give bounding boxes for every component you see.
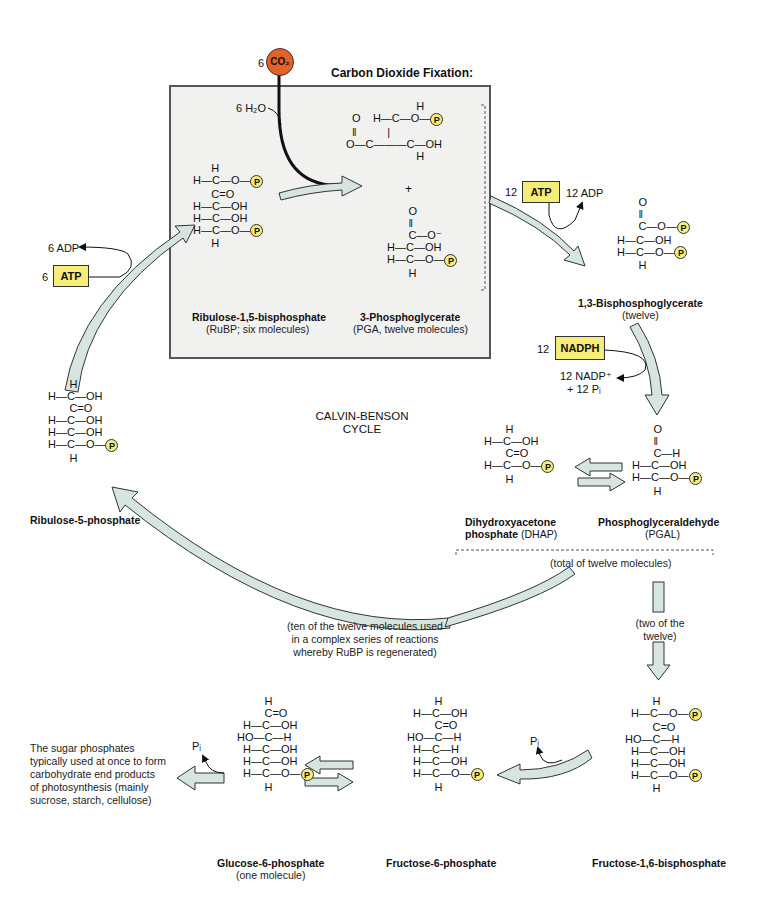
bpg-structure: O ‖ C—O—P H—C—OH H—C—O—P H bbox=[617, 196, 690, 271]
pi-label: + 12 Pᵢ bbox=[567, 383, 601, 395]
atp6-box: ATP bbox=[53, 265, 89, 287]
note-line: carbohydrate end products bbox=[30, 768, 190, 781]
phosphate-icon: P bbox=[105, 439, 118, 452]
pga-structure-2: O ‖ C—O⁻ H—C—OH H—C—O—P H bbox=[387, 205, 457, 279]
end-products-note: The sugar phosphates typically used at o… bbox=[30, 742, 190, 807]
pi-g6p-label: Pᵢ bbox=[192, 740, 201, 752]
phosphate-icon: P bbox=[541, 460, 554, 473]
note-line: (two of the bbox=[632, 617, 688, 630]
note-line: twelve) bbox=[632, 630, 688, 643]
pi-fbp-label: Pᵢ bbox=[530, 735, 539, 747]
phosphate-icon: P bbox=[471, 768, 484, 781]
phosphate-icon: P bbox=[250, 175, 263, 188]
f6p-structure: H H—C—OH C=O HO—C—H H—C—H H—C—OH H—C—O—P… bbox=[407, 695, 484, 793]
total-note: (total of twelve molecules) bbox=[550, 557, 671, 569]
pga-structure-1: H O H—C—O—P ‖ | O—C———C—OH H bbox=[346, 100, 443, 162]
note-line: in a complex series of reactions bbox=[285, 633, 445, 646]
fixation-title: Carbon Dioxide Fixation: bbox=[331, 66, 473, 80]
g6p-sub: (one molecule) bbox=[236, 869, 305, 881]
co2-circle: CO₂ bbox=[266, 48, 294, 76]
note-line: typically used at once to form bbox=[30, 755, 190, 768]
note-line: of photosynthesis (mainly bbox=[30, 781, 190, 794]
co2-coefficient: 6 bbox=[258, 57, 264, 69]
pgal-sub: (PGAL) bbox=[645, 528, 680, 540]
two-of-twelve-note: (two of the twelve) bbox=[632, 617, 688, 643]
cycle-label-line1: CALVIN-BENSON bbox=[312, 410, 412, 423]
phosphate-icon: P bbox=[430, 113, 443, 126]
nadp-label: 12 NADP⁺ bbox=[560, 370, 612, 383]
r5p-structure: H H—C—OH C=O H—C—OH H—C—OH H—C—O—P H bbox=[48, 378, 118, 464]
phosphate-icon: P bbox=[674, 246, 687, 259]
rubp-sub: (RuBP; six molecules) bbox=[206, 323, 309, 335]
note-line: The sugar phosphates bbox=[30, 742, 190, 755]
dhap-abbr: (DHAP) bbox=[521, 528, 557, 540]
dhap-name2: phosphate (DHAP) bbox=[465, 528, 557, 540]
phosphate-icon: P bbox=[677, 221, 690, 234]
adp12-label: 12 ADP bbox=[566, 187, 603, 199]
phosphate-icon: P bbox=[444, 254, 457, 267]
adp6-label: 6 ADP bbox=[48, 242, 79, 254]
pga-sub: (PGA, twelve molecules) bbox=[353, 323, 468, 335]
dhap-name-line2: phosphate bbox=[465, 528, 518, 540]
nadph-coefficient: 12 bbox=[537, 343, 549, 355]
rubp-structure: H H—C—O—P C=O H—C—OH H—C—OH H—C—O—P H bbox=[193, 162, 263, 249]
regen-note: (ten of the twelve molecules used in a c… bbox=[285, 620, 445, 659]
dhap-structure: H H—C—OH C=O H—C—O—P H bbox=[484, 423, 554, 485]
pga-name: 3-Phosphoglycerate bbox=[360, 311, 460, 323]
rubp-name: Ribulose-1,5-bisphosphate bbox=[192, 311, 326, 323]
cycle-label-line2: CYCLE bbox=[312, 423, 412, 436]
water-label: 6 H₂O bbox=[236, 102, 266, 114]
phosphate-icon: P bbox=[250, 224, 263, 237]
pgal-structure: O ‖ C—H H—C—OH H—C—O—P H bbox=[632, 423, 702, 497]
phosphate-icon: P bbox=[689, 472, 702, 485]
note-line: (ten of the twelve molecules used bbox=[285, 620, 445, 633]
nadph-box: NADPH bbox=[555, 336, 605, 360]
pgal-name: Phosphoglyceraldehyde bbox=[598, 516, 719, 528]
atp6-coefficient: 6 bbox=[42, 271, 48, 283]
cycle-label: CALVIN-BENSON CYCLE bbox=[312, 410, 412, 436]
bpg-sub: (twelve) bbox=[622, 309, 659, 321]
g6p-name: Glucose-6-phosphate bbox=[217, 857, 324, 869]
g6p-structure: H C=O H—C—OH HO—C—H H—C—OH H—C—OH H—C—O—… bbox=[237, 695, 314, 793]
dhap-name: Dihydroxyacetone bbox=[465, 516, 556, 528]
f6p-name: Fructose-6-phosphate bbox=[386, 857, 496, 869]
phosphate-icon: P bbox=[689, 769, 702, 782]
note-line: whereby RuBP is regenerated) bbox=[285, 646, 445, 659]
atp12-box: ATP bbox=[522, 181, 560, 203]
fbp-name: Fructose-1,6-bisphosphate bbox=[592, 857, 726, 869]
bpg-name: 1,3-Bisphosphoglycerate bbox=[578, 297, 703, 309]
r5p-name: Ribulose-5-phosphate bbox=[30, 514, 140, 526]
fbp-structure: H H—C—O—P C=O HO—C—H H—C—OH H—C—OH H—C—O… bbox=[625, 695, 702, 794]
phosphate-icon: P bbox=[689, 708, 702, 721]
note-line: sucrose, starch, cellulose) bbox=[30, 794, 190, 807]
pga-plus: + bbox=[405, 182, 412, 196]
phosphate-icon: P bbox=[301, 768, 314, 781]
atp12-coefficient: 12 bbox=[505, 186, 517, 198]
